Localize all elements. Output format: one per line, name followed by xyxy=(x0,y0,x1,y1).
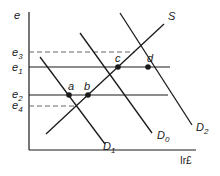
x-axis-label: Ir£ xyxy=(180,155,192,166)
d0-label: D0 xyxy=(157,129,170,144)
point-a-label: a xyxy=(68,80,74,92)
supply-curve-s xyxy=(46,24,164,134)
demand-curve-d0 xyxy=(80,33,152,133)
point-d xyxy=(145,64,151,70)
y-axis-label: e xyxy=(14,9,20,21)
point-a xyxy=(66,92,72,98)
d2-label: D2 xyxy=(196,121,209,136)
supply-curve-label: S xyxy=(168,10,176,22)
point-c xyxy=(115,64,121,70)
demand-curve-d2 xyxy=(120,13,192,125)
e1-label: e1 xyxy=(12,61,23,76)
point-b xyxy=(85,92,91,98)
point-b-label: b xyxy=(84,80,90,92)
e3-label: e3 xyxy=(12,46,23,61)
d1-label: D1 xyxy=(103,140,115,155)
exchange-rate-diagram: e Ir£ e3 e1 e2 e4 S D1 D0 D2 a b c d xyxy=(0,0,220,176)
point-c-label: c xyxy=(115,52,121,64)
point-d-label: d xyxy=(147,52,154,64)
